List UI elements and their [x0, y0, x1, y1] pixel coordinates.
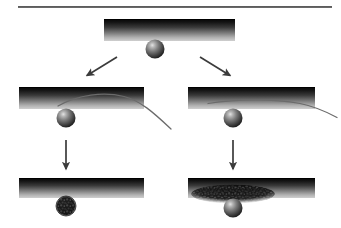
probe-sphere: [57, 109, 76, 128]
substrate-bar: [188, 87, 315, 109]
substrate-bar: [19, 178, 144, 198]
probe-sphere: [146, 40, 165, 59]
substrate-bar: [104, 19, 235, 41]
substrate-bar-top-edge: [188, 87, 315, 88]
figure-root: [0, 0, 341, 228]
substrate-bar-top-edge: [104, 19, 235, 20]
diagram-canvas: [0, 0, 341, 228]
substrate-bar-top-edge: [19, 87, 144, 88]
substrate-bar-top-edge: [19, 178, 144, 179]
probe-sphere: [224, 109, 243, 128]
substrate-bar-top-edge: [188, 178, 315, 179]
probe-sphere: [224, 199, 243, 218]
horizontal-rule: [18, 6, 332, 8]
substrate-bar: [19, 87, 144, 109]
